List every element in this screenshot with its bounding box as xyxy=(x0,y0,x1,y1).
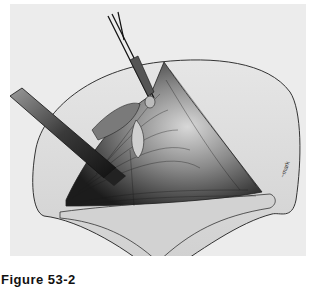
figure-caption: Figure 53-2 xyxy=(1,272,76,287)
figure-illustration: ~mark xyxy=(10,4,306,256)
